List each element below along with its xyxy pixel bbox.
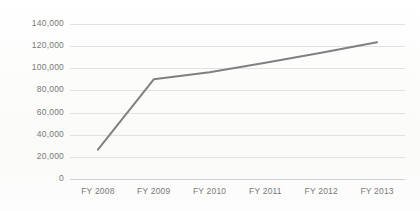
- x-tick-label: FY 2013: [360, 186, 393, 196]
- gridline-0: [70, 179, 405, 180]
- y-tick-label: 140,000: [4, 18, 64, 28]
- y-tick-label: 20,000: [4, 151, 64, 161]
- y-tick-label: 120,000: [4, 40, 64, 50]
- x-tick-label: FY 2011: [249, 186, 282, 196]
- plot-area: [70, 24, 405, 179]
- y-tick-label: 60,000: [4, 107, 64, 117]
- series-line-series-1: [98, 42, 377, 149]
- x-tick-label: FY 2012: [305, 186, 338, 196]
- x-tick-label: FY 2009: [137, 186, 170, 196]
- series-layer: [70, 24, 405, 179]
- y-tick-label: 80,000: [4, 84, 64, 94]
- y-tick-label: 40,000: [4, 129, 64, 139]
- line-chart: 020,00040,00060,00080,000100,000120,0001…: [0, 0, 420, 211]
- x-tick-label: FY 2010: [193, 186, 226, 196]
- y-tick-label: 0: [4, 173, 64, 183]
- x-tick-label: FY 2008: [81, 186, 114, 196]
- y-tick-label: 100,000: [4, 62, 64, 72]
